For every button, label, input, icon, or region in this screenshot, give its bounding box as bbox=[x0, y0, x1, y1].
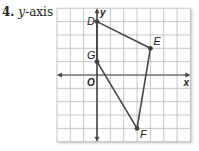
point-label-e: E bbox=[153, 35, 161, 47]
y-axis-label: y bbox=[99, 7, 106, 18]
point-d bbox=[95, 19, 100, 24]
point-f bbox=[135, 126, 140, 131]
origin-label: O bbox=[87, 77, 95, 88]
x-axis-label: x bbox=[182, 77, 189, 88]
point-label-d: D bbox=[87, 15, 95, 27]
point-label-g: G bbox=[87, 49, 96, 61]
point-e bbox=[148, 46, 153, 51]
coordinate-graph: DEFG xyO bbox=[0, 0, 199, 151]
